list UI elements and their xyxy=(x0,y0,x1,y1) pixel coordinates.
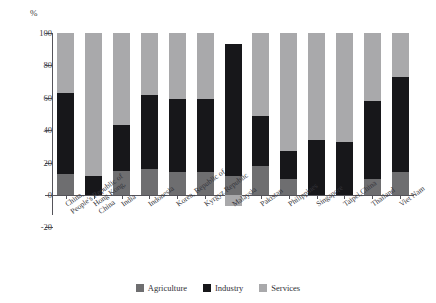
bar-segment-services[interactable] xyxy=(141,33,158,95)
bar-segment-industry[interactable] xyxy=(197,99,214,172)
legend-item[interactable]: Industry xyxy=(203,283,243,293)
bar-stack[interactable] xyxy=(141,33,158,195)
bar-stack[interactable] xyxy=(197,33,214,195)
bar-segment-industry[interactable] xyxy=(280,151,297,179)
bar-segment-agriculture[interactable] xyxy=(141,169,158,195)
bar-stack[interactable] xyxy=(225,33,242,195)
bar-stack[interactable] xyxy=(85,33,102,195)
bar-segment-industry[interactable] xyxy=(225,44,242,175)
bar-segment-industry[interactable] xyxy=(141,95,158,170)
bar-stack[interactable] xyxy=(308,33,325,195)
chart-root: % 100806040200-20 China,People's Republi… xyxy=(0,0,436,303)
bar-stack[interactable] xyxy=(364,33,381,195)
legend-item[interactable]: Services xyxy=(259,283,300,293)
bar-segment-services[interactable] xyxy=(364,33,381,101)
legend-swatch-agri xyxy=(136,284,144,292)
bar-stack[interactable] xyxy=(336,33,353,195)
chart-legend: AgricultureIndustryServices xyxy=(0,281,436,295)
bar-stack[interactable] xyxy=(252,33,269,195)
bar-stack[interactable] xyxy=(57,33,74,195)
y-axis-tick-label: 100 xyxy=(12,28,52,38)
y-axis-tick-label: 60 xyxy=(12,93,52,103)
bar-segment-industry[interactable] xyxy=(364,101,381,179)
x-axis-category-labels: China,People's Republic ofHong Kong,Chin… xyxy=(0,198,436,268)
legend-label: Industry xyxy=(215,283,243,293)
legend-item[interactable]: Agriculture xyxy=(136,283,187,293)
bar-segment-services[interactable] xyxy=(57,33,74,93)
bar-segment-industry[interactable] xyxy=(113,125,130,170)
bar-segment-services[interactable] xyxy=(392,33,409,77)
bar-segment-services[interactable] xyxy=(113,33,130,125)
bar-segment-services[interactable] xyxy=(252,33,269,116)
bar-segment-industry[interactable] xyxy=(252,116,269,166)
legend-swatch-serv xyxy=(259,284,267,292)
bar-stack[interactable] xyxy=(169,33,186,195)
bar-segment-services[interactable] xyxy=(308,33,325,140)
bar-stack[interactable] xyxy=(392,33,409,195)
y-axis-unit-label: % xyxy=(30,8,38,18)
bar-segment-industry[interactable] xyxy=(57,93,74,174)
y-axis-tick-label: 40 xyxy=(12,125,52,135)
legend-swatch-ind xyxy=(203,284,211,292)
y-axis-tick-label: 20 xyxy=(12,158,52,168)
bar-segment-industry[interactable] xyxy=(392,77,409,173)
y-axis-tick-label: 80 xyxy=(12,60,52,70)
legend-label: Services xyxy=(271,283,300,293)
legend-label: Agriculture xyxy=(148,283,187,293)
bar-segment-services[interactable] xyxy=(85,33,102,176)
bar-segment-agriculture[interactable] xyxy=(57,174,74,195)
bar-stack[interactable] xyxy=(280,33,297,195)
bar-segment-services[interactable] xyxy=(336,33,353,142)
bar-segment-industry[interactable] xyxy=(169,99,186,172)
bar-segment-services[interactable] xyxy=(197,33,214,99)
bar-segment-services[interactable] xyxy=(169,33,186,99)
bar-segment-services[interactable] xyxy=(280,33,297,151)
